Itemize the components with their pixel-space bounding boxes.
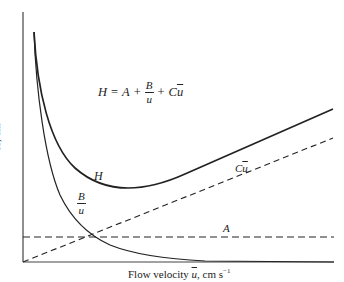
eq-lhs: H (98, 85, 107, 100)
eq-equals: = (111, 85, 118, 100)
label-b-num: B (77, 191, 86, 204)
eq-frac-num: B (145, 80, 154, 93)
label-b-den: u (79, 204, 85, 216)
eq-term-a: A (122, 85, 130, 100)
equation: H = A + B u + Cu (98, 80, 183, 105)
label-c-var: u (242, 162, 248, 174)
eq-c-var: u (177, 85, 183, 99)
x-label-exp: −1 (223, 267, 230, 275)
y-label-var: H (0, 142, 2, 150)
eq-c-const: C (169, 85, 177, 99)
label-b-over-u: B u (77, 191, 86, 216)
label-a: A (223, 223, 230, 234)
label-h: H (94, 170, 103, 182)
x-axis-label: Flow velocity u, cm s−1 (128, 267, 231, 280)
y-axis-label: H, cm (0, 123, 2, 150)
curve-h (34, 32, 333, 188)
eq-fraction: B u (145, 80, 154, 105)
y-label-unit: , cm (0, 123, 2, 142)
eq-plus-2: + (158, 85, 165, 100)
x-label-text: Flow velocity (128, 268, 192, 280)
curve-b-over-u (34, 32, 334, 262)
x-label-unit: , cm s (197, 268, 223, 280)
eq-term-c: Cu (169, 85, 184, 100)
eq-plus-1: + (134, 85, 141, 100)
eq-frac-den: u (146, 93, 152, 105)
curve-cu (23, 138, 333, 262)
label-cu: Cu (235, 163, 248, 174)
van-deemter-plot (0, 0, 344, 282)
